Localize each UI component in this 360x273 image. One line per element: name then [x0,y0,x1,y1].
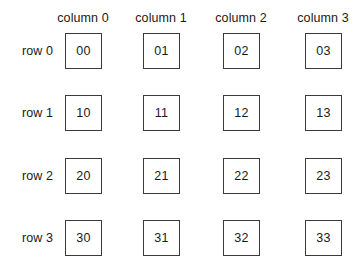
cell-value: 22 [234,169,248,183]
column-header-2: column 2 [215,11,267,25]
cell-box: 22 [223,158,260,194]
cell-box: 21 [143,158,180,194]
cell-box: 03 [305,33,342,69]
row-label-2: row 2 [22,169,53,183]
row-label-1: row 1 [22,106,53,120]
cell-box: 12 [223,95,260,131]
cell-value: 21 [154,169,168,183]
row-label-3: row 3 [22,231,53,245]
cell-value: 11 [155,106,168,120]
cell-box: 13 [305,95,342,131]
row-label-0: row 0 [22,44,53,58]
cell-value: 30 [76,231,90,245]
cell-value: 13 [316,106,330,120]
cell-value: 02 [234,44,248,58]
cell-box: 33 [305,220,342,256]
cell-value: 31 [154,231,168,245]
cell-box: 00 [65,33,102,69]
cell-value: 01 [154,44,168,58]
column-header-0: column 0 [57,11,109,25]
cell-value: 32 [234,231,248,245]
cell-box: 30 [65,220,102,256]
cell-box: 31 [143,220,180,256]
cell-box: 11 [143,95,180,131]
grid-diagram: column 0 column 1 column 2 column 3 row … [0,0,360,273]
cell-value: 10 [76,106,90,120]
cell-box: 23 [305,158,342,194]
cell-value: 23 [316,169,330,183]
cell-box: 20 [65,158,102,194]
column-header-3: column 3 [297,11,349,25]
cell-value: 03 [316,44,330,58]
cell-box: 01 [143,33,180,69]
cell-value: 20 [76,169,90,183]
cell-value: 33 [316,231,330,245]
column-header-1: column 1 [135,11,187,25]
cell-box: 10 [65,95,102,131]
cell-value: 12 [234,106,248,120]
cell-box: 02 [223,33,260,69]
cell-value: 00 [76,44,90,58]
cell-box: 32 [223,220,260,256]
